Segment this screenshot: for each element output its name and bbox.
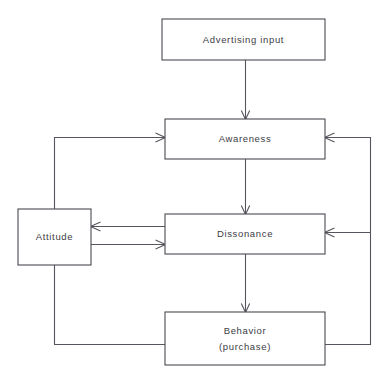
- edge-attitude-to-dissonance: [91, 240, 166, 249]
- node-dissonance[interactable]: Dissonance: [165, 214, 325, 254]
- node-label-dissonance: Dissonance: [217, 228, 273, 239]
- edge-dissonance-to-attitude: [91, 222, 166, 231]
- node-awareness[interactable]: Awareness: [165, 119, 325, 159]
- node-label-behavior-line1: Behavior: [224, 325, 267, 336]
- edge-advertising-to-awareness: [241, 60, 249, 120]
- edge-behavior-to-dissonance-right: [325, 228, 371, 237]
- node-label-advertising-input: Advertising input: [203, 34, 284, 45]
- edge-behavior-to-awareness-right: [325, 133, 371, 345]
- node-advertising-input[interactable]: Advertising input: [162, 19, 325, 60]
- node-behavior[interactable]: Behavior (purchase): [165, 312, 325, 365]
- edge-awareness-to-dissonance: [241, 159, 249, 215]
- edge-dissonance-to-behavior: [241, 254, 249, 313]
- node-attitude[interactable]: Attitude: [18, 209, 91, 265]
- node-label-awareness: Awareness: [219, 133, 272, 144]
- node-label-attitude: Attitude: [36, 231, 73, 242]
- flow-diagram-canvas: Advertising input Awareness Attitude Dis…: [0, 0, 386, 384]
- node-label-behavior-line2: (purchase): [219, 341, 271, 352]
- flow-diagram: Advertising input Awareness Attitude Dis…: [0, 0, 386, 384]
